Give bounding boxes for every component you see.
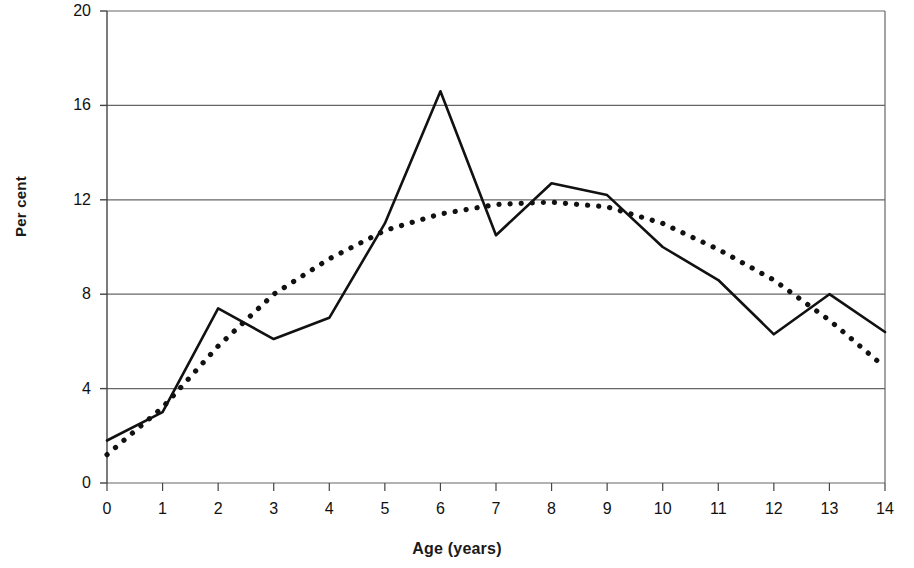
plot-frame xyxy=(107,11,885,483)
data-series xyxy=(107,91,885,454)
plot-area xyxy=(0,0,914,568)
axis-ticks xyxy=(100,11,885,491)
gridlines xyxy=(107,11,885,483)
chart-figure: Per cent Age (years) 048121620 012345678… xyxy=(0,0,914,568)
